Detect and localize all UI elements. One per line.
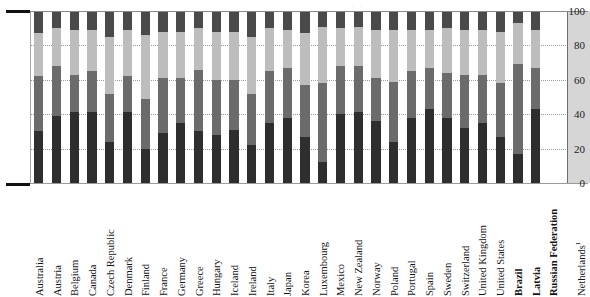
stacked-bar	[425, 11, 434, 183]
bar-column[interactable]	[354, 11, 363, 183]
bar-column[interactable]	[318, 11, 327, 183]
bar-column[interactable]	[371, 11, 380, 183]
bar-segment-4	[478, 11, 487, 30]
bar-column[interactable]	[283, 11, 292, 183]
bar-column[interactable]	[194, 11, 203, 183]
stacked-bar	[105, 11, 114, 183]
bar-segment-4	[194, 11, 203, 28]
stacked-bar	[34, 11, 43, 183]
x-tick-label-wrap: United Kingdom	[474, 184, 492, 297]
bar-segment-1	[247, 145, 256, 183]
bar-column[interactable]	[52, 11, 61, 183]
bar-segment-1	[34, 131, 43, 183]
stacked-bar	[158, 11, 167, 183]
bar-segment-1	[265, 123, 274, 183]
bar-segment-3	[318, 27, 327, 84]
stacked-bar	[123, 11, 132, 183]
bar-segment-3	[371, 30, 380, 78]
bar-column[interactable]	[425, 11, 434, 183]
bar-column[interactable]	[70, 11, 79, 183]
bar-column[interactable]	[105, 11, 114, 183]
bar-segment-1	[300, 137, 309, 183]
bar-column[interactable]	[513, 11, 522, 183]
bar-segment-3	[496, 32, 505, 84]
bar-segment-2	[176, 78, 185, 123]
bar-segment-2	[442, 73, 451, 118]
stacked-bar	[265, 11, 274, 183]
bar-segment-4	[371, 11, 380, 30]
bar-segment-3	[141, 35, 150, 99]
bar-segment-4	[229, 11, 238, 32]
bar-segment-3	[247, 37, 256, 94]
bar-column[interactable]	[265, 11, 274, 183]
bar-segment-1	[531, 109, 540, 183]
x-tick-label-wrap: Mexico	[332, 184, 350, 297]
bar-column[interactable]	[549, 11, 558, 183]
bar-segment-1	[318, 162, 327, 183]
bar-column[interactable]	[212, 11, 221, 183]
bar-column[interactable]	[247, 11, 256, 183]
stacked-bar	[442, 11, 451, 183]
bar-column[interactable]	[460, 11, 469, 183]
x-tick-label-wrap: Brazil	[509, 184, 527, 297]
x-tick-label: Austria	[53, 265, 64, 296]
x-tick-label: Italy	[266, 277, 277, 296]
bar-segment-1	[87, 112, 96, 183]
bar-segment-4	[283, 11, 292, 30]
bar-column[interactable]	[442, 11, 451, 183]
y-tick-label-40: 40	[574, 109, 585, 120]
bar-column[interactable]	[496, 11, 505, 183]
bar-segment-3	[336, 28, 345, 66]
stacked-bar	[247, 11, 256, 183]
bar-column[interactable]	[407, 11, 416, 183]
bar-segment-1	[425, 109, 434, 183]
bar-column[interactable]	[389, 11, 398, 183]
bar-column[interactable]	[34, 11, 43, 183]
bar-segment-2	[513, 64, 522, 153]
bar-segment-2	[158, 78, 167, 133]
bar-column[interactable]	[176, 11, 185, 183]
bar-segment-3	[460, 30, 469, 75]
bar-segment-3	[229, 32, 238, 80]
x-tick-label-wrap: New Zealand	[349, 184, 367, 297]
bar-segment-3	[389, 30, 398, 82]
bar-segment-3	[478, 30, 487, 75]
x-tick-label-wrap: Sweden	[438, 184, 456, 297]
x-tick-label-wrap: Denmark	[119, 184, 137, 297]
bar-segment-2	[496, 83, 505, 136]
bar-column[interactable]	[575, 11, 584, 183]
stacked-bar	[336, 11, 345, 183]
bar-segment-2	[354, 66, 363, 112]
bar-column[interactable]	[229, 11, 238, 183]
x-tick-label: Australia	[35, 258, 46, 297]
bar-segment-2	[318, 83, 327, 162]
x-tick-label-wrap: Australia	[30, 184, 48, 297]
bar-column[interactable]	[300, 11, 309, 183]
bar-segment-1	[478, 123, 487, 183]
bar-segment-4	[176, 11, 185, 32]
x-tick-label: Hungary	[212, 259, 223, 296]
bar-segment-2	[407, 71, 416, 117]
x-tick-label: United Kingdom	[478, 225, 489, 296]
y-tick-label-60: 60	[574, 74, 585, 85]
bar-segment-2	[389, 82, 398, 142]
bar-column[interactable]	[531, 11, 540, 183]
bar-column[interactable]	[123, 11, 132, 183]
bar-segment-4	[158, 11, 167, 32]
stacked-bar	[513, 11, 522, 183]
x-tick-label: Germany	[177, 257, 188, 296]
bar-segment-2	[283, 68, 292, 118]
x-tick-label: Iceland	[230, 265, 241, 296]
bar-column[interactable]	[87, 11, 96, 183]
bar-column[interactable]	[158, 11, 167, 183]
bar-column[interactable]	[336, 11, 345, 183]
x-tick-label: Portugal	[407, 260, 418, 296]
bar-column[interactable]	[478, 11, 487, 183]
bar-segment-2	[425, 68, 434, 109]
x-tick-label-wrap: Norway	[367, 184, 385, 297]
bar-segment-1	[229, 130, 238, 183]
bar-segment-4	[212, 11, 221, 32]
bar-column[interactable]	[141, 11, 150, 183]
x-tick-label-wrap: Portugal	[403, 184, 421, 297]
bar-segment-3	[176, 32, 185, 78]
